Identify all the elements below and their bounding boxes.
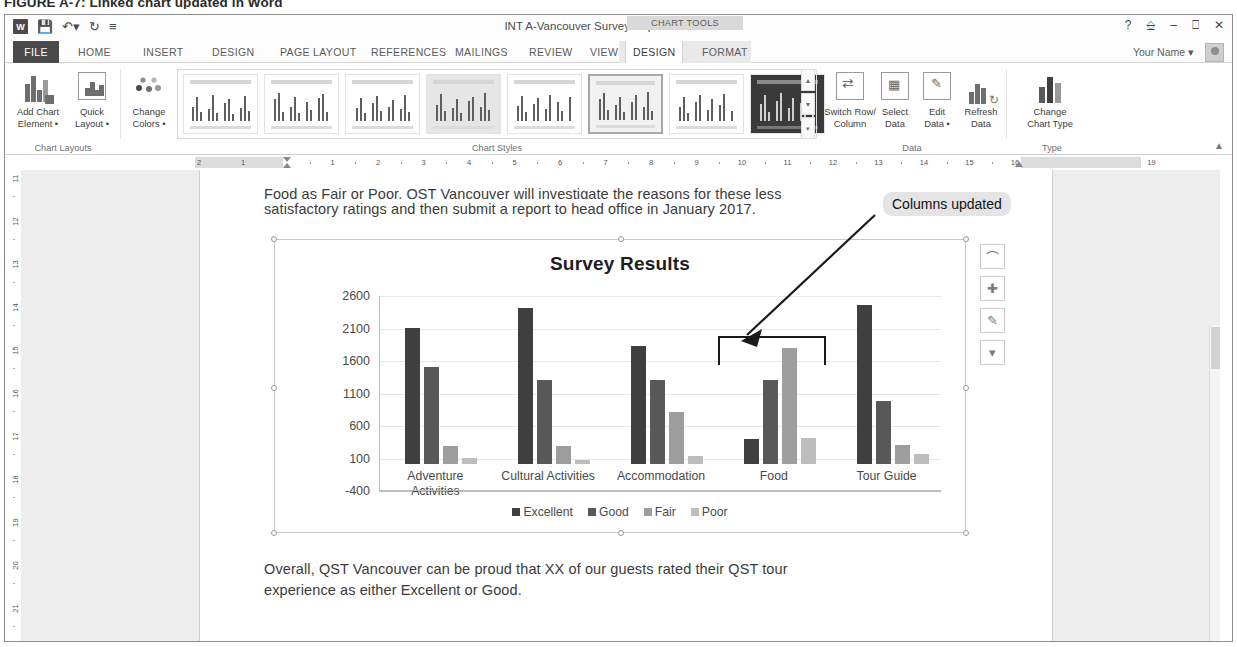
word-window: W 💾 ↶​▾ ↻ ≡ INT A-Vancouver Survey Repor… — [4, 14, 1233, 642]
annotation-arrow — [5, 15, 1234, 643]
chart-filters-icon[interactable]: ▾ — [980, 340, 1005, 365]
chart-quick-buttons[interactable]: ⌒ ✚ ✎ ▾ — [980, 244, 1005, 365]
layout-options-icon[interactable]: ⌒ — [980, 244, 1005, 269]
annotation-callout: Columns updated — [883, 192, 1011, 216]
figure-caption: FIGURE A-7: Linked chart updated in Word — [4, 0, 283, 9]
chart-elements-icon[interactable]: ✚ — [980, 276, 1005, 301]
chart-styles-icon[interactable]: ✎ — [980, 308, 1005, 333]
